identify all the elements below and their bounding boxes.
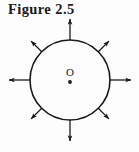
arrow-group — [9, 19, 131, 141]
arrow-up-right — [98, 41, 109, 52]
main-circle — [30, 40, 110, 120]
arrow-down-right — [98, 108, 109, 119]
figure-container: Figure 2.5 O — [0, 0, 139, 152]
center-point-dot — [68, 80, 72, 84]
arrow-up-left — [31, 41, 42, 52]
center-label-o: O — [66, 66, 74, 78]
radial-arrow-circle-diagram: O — [0, 0, 139, 152]
arrow-down-left — [31, 108, 42, 119]
